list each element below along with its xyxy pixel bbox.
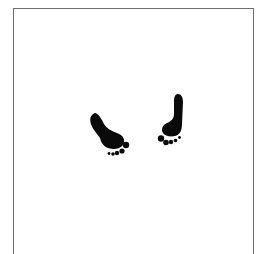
footprints-illustration — [0, 0, 265, 254]
right-footprint-icon — [158, 94, 183, 145]
left-footprint-icon — [90, 113, 129, 156]
